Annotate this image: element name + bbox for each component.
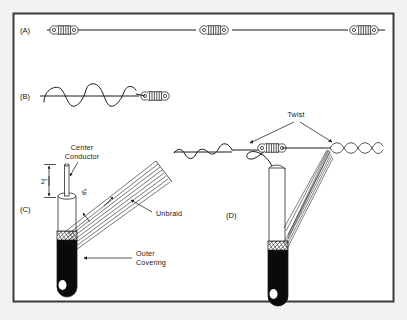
- jacket-highlight: [59, 280, 67, 290]
- outer-covering-label-line2: Covering: [136, 258, 166, 267]
- dielectric-sleeve-c: [58, 196, 76, 231]
- panel-b-label: (B): [20, 92, 31, 101]
- center-conductor-tip: [65, 164, 69, 166]
- choke-d: [258, 144, 286, 153]
- antenna-construction-diagram: (A) (B) (C): [0, 0, 407, 320]
- center-conductor-pin: [65, 165, 69, 196]
- panel-d-label: (D): [226, 211, 237, 220]
- center-conductor-label-line1: Center: [71, 143, 94, 152]
- unbraid-label: Unbraid: [156, 209, 182, 218]
- outer-covering-label-line1: Outer: [136, 249, 155, 258]
- choke-b: [141, 92, 169, 101]
- dielectric-sleeve-d: [269, 168, 285, 241]
- choke-a-right: [350, 26, 378, 35]
- panel-c-label: (C): [20, 205, 31, 214]
- center-conductor-label-line2: Conductor: [65, 152, 100, 161]
- braid-band-d: [268, 241, 288, 250]
- dimension-2in-label: 2": [41, 178, 48, 185]
- figure-container: (A) (B) (C): [0, 0, 407, 320]
- twist-label: Twist: [287, 110, 304, 119]
- choke-a-left: [50, 26, 78, 35]
- choke-a-center: [200, 26, 228, 35]
- jacket-highlight-d: [270, 289, 278, 299]
- panel-a-label: (A): [20, 26, 31, 35]
